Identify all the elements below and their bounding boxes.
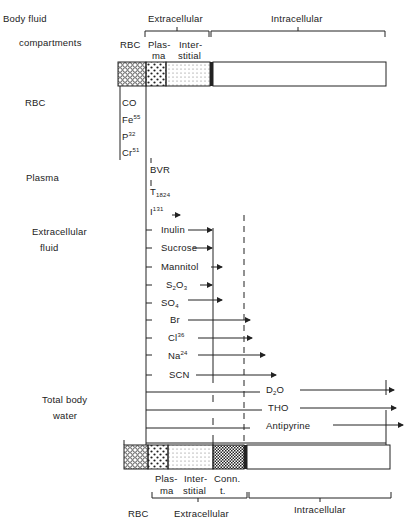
bottom-conn-label-2: t. bbox=[220, 485, 226, 496]
diagram-lines bbox=[0, 0, 413, 530]
marker-na: Na24 bbox=[168, 350, 188, 361]
marker-br: Br bbox=[170, 314, 180, 325]
marker-so4: SO4 bbox=[161, 297, 179, 309]
bottom-compartment-bar bbox=[124, 440, 390, 469]
bottom-interstitial-label-1: Inter- bbox=[184, 473, 207, 484]
top-compartment-bar bbox=[118, 62, 386, 86]
row-label-ecf-1: Extracellular bbox=[32, 226, 87, 237]
marker-sucrose: Sucrose bbox=[161, 242, 197, 253]
marker-i131: I131 bbox=[150, 206, 163, 217]
bottom-extracellular-label: Extracellular bbox=[174, 508, 229, 519]
top-extracellular-label: Extracellular bbox=[148, 13, 203, 24]
row-label-tbw-1: Total body bbox=[42, 394, 87, 405]
row-label-tbw-2: water bbox=[53, 410, 77, 421]
title-line-1: Body fluid bbox=[3, 13, 47, 24]
marker-co: CO bbox=[122, 97, 137, 108]
bottom-rbc-label: RBC bbox=[128, 508, 149, 519]
marker-scn: SCN bbox=[169, 369, 190, 380]
top-interstitial-label-1: Inter- bbox=[179, 39, 202, 50]
bottom-plasma-label-1: Plas- bbox=[155, 473, 178, 484]
marker-cr: Cr51 bbox=[122, 147, 140, 158]
top-rbc-label: RBC bbox=[120, 39, 141, 50]
marker-mannitol: Mannitol bbox=[161, 261, 199, 272]
row-label-ecf-2: fluid bbox=[40, 242, 58, 253]
marker-antipyrine: Antipyrine bbox=[266, 420, 310, 431]
bottom-plasma-label-2: ma bbox=[160, 485, 174, 496]
bottom-interstitial-label-2: stitial bbox=[183, 485, 206, 496]
top-plasma-label-2: ma bbox=[152, 50, 166, 61]
marker-d2o: D2O bbox=[266, 384, 284, 396]
top-brackets bbox=[145, 27, 385, 37]
row-label-rbc: RBC bbox=[25, 97, 46, 108]
bottom-conn-label-1: Conn. bbox=[214, 473, 240, 484]
marker-s2o3: S2O3 bbox=[166, 279, 187, 291]
bottom-intracellular-label: Intracellular bbox=[294, 504, 346, 515]
marker-fe: Fe55 bbox=[122, 114, 141, 125]
top-interstitial-label-2: stitial bbox=[178, 50, 201, 61]
row-label-plasma: Plasma bbox=[26, 172, 59, 183]
top-plasma-label-1: Plas- bbox=[148, 39, 171, 50]
top-intracellular-label: Intracellular bbox=[271, 13, 323, 24]
marker-inulin: Inulin bbox=[161, 224, 185, 235]
marker-bvr: BVR bbox=[150, 164, 170, 175]
marker-p: P32 bbox=[122, 131, 136, 142]
marker-cl: Cl36 bbox=[168, 332, 184, 343]
marker-t1824: T1824 bbox=[150, 186, 170, 198]
title-line-2: compartments bbox=[19, 37, 82, 48]
marker-tho: THO bbox=[268, 402, 289, 413]
